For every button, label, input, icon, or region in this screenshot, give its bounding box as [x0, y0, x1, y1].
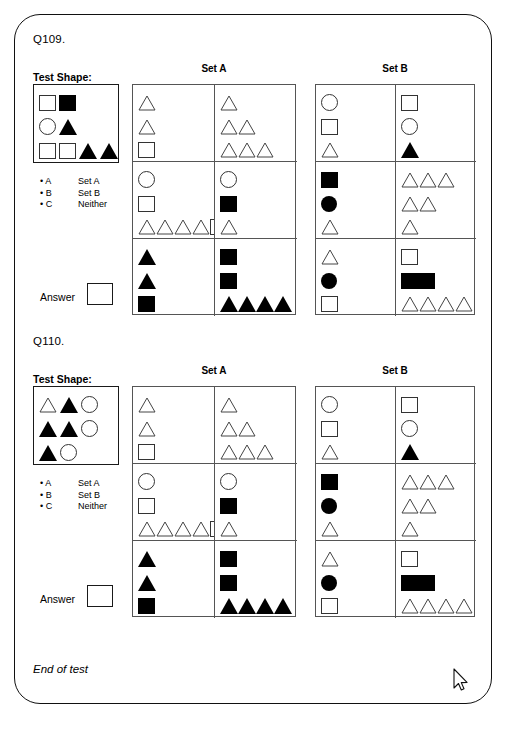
q109-set-a-label: Set A: [132, 63, 296, 74]
q109-answer-box[interactable]: [87, 283, 113, 305]
q109-option-b[interactable]: • BSet B: [40, 188, 107, 200]
triangle-outline: [455, 598, 473, 614]
triangle-outline: [437, 598, 455, 614]
q110-set-b-cell-b4[interactable]: [396, 464, 476, 541]
square-outline: [59, 143, 76, 159]
q109-set-a-cell-a3[interactable]: [133, 162, 215, 239]
q109-set-b-cell-b5[interactable]: [316, 239, 396, 316]
q109-set-b-cell-b6[interactable]: [396, 239, 476, 316]
shape-row: [321, 549, 339, 567]
triangle-outline: [401, 219, 419, 235]
shape-row: [401, 442, 419, 460]
q109-set-a-cell-a4[interactable]: [215, 162, 297, 239]
q110-option-c[interactable]: • CNeither: [40, 501, 107, 513]
triangle-filled: [238, 296, 256, 312]
triangle-filled: [274, 598, 292, 614]
q110-answer-box[interactable]: [87, 585, 113, 607]
shape-row: [321, 472, 338, 490]
q110-set-a-cell-a2[interactable]: [215, 387, 297, 464]
option-bullet: • A: [40, 478, 78, 490]
triangle-filled: [220, 598, 238, 614]
triangle-filled: [59, 119, 77, 135]
q109-set-b-cell-b4[interactable]: [396, 162, 476, 239]
shape-row: [401, 549, 418, 567]
shape-row: [138, 596, 155, 614]
shape-row: [321, 93, 338, 111]
shape-row: [321, 442, 339, 460]
shape-row: [321, 395, 338, 413]
shape-row: [138, 496, 155, 514]
q110-option-a[interactable]: • ASet A: [40, 478, 107, 490]
q109-answer-label: Answer: [40, 291, 75, 303]
triangle-outline: [321, 219, 339, 235]
shape-row: [321, 217, 339, 235]
shape-row: [401, 419, 418, 437]
q109-set-a-cell-a2[interactable]: [215, 85, 297, 162]
shape-row: [138, 170, 155, 188]
triangle-outline: [138, 397, 156, 413]
square-filled: [220, 551, 237, 567]
shape-row: [220, 573, 237, 591]
circle-outline: [401, 118, 418, 135]
square-outline: [138, 142, 155, 158]
q109-set-a-cell-a6[interactable]: [215, 239, 297, 316]
option-value: Neither: [78, 501, 107, 513]
q109-set-b-cell-b1[interactable]: [316, 85, 396, 162]
option-value: Set B: [78, 490, 100, 502]
triangle-outline: [455, 296, 473, 312]
q109-set-b-cell-b3[interactable]: [316, 162, 396, 239]
q110-set-b-cell-b5[interactable]: [316, 541, 396, 618]
q109-option-c[interactable]: • CNeither: [40, 199, 107, 211]
q109-set-b-cell-b2[interactable]: [396, 85, 476, 162]
q110-set-b-cell-b6[interactable]: [396, 541, 476, 618]
circle-outline: [39, 118, 56, 135]
q109-option-a[interactable]: • ASet A: [40, 176, 107, 188]
triangle-outline: [192, 521, 210, 537]
circle-outline: [401, 420, 418, 437]
q110-number: Q110.: [33, 335, 64, 347]
q110-test-shape-label: Test Shape:: [33, 373, 92, 385]
q110-option-b[interactable]: • BSet B: [40, 490, 107, 502]
shape-row: [138, 194, 155, 212]
q109-set-b-grid: [315, 84, 475, 315]
test-shape-row: [39, 417, 98, 437]
q110-set-b-cell-b3[interactable]: [316, 464, 396, 541]
triangle-outline: [156, 219, 174, 235]
q110-set-b-cell-b1[interactable]: [316, 387, 396, 464]
triangle-outline: [321, 521, 339, 537]
shape-row: [220, 549, 237, 567]
q109-set-a-cell-a5[interactable]: [133, 239, 215, 316]
q110-set-a-cell-a6[interactable]: [215, 541, 297, 618]
q110-set-a-cell-a4[interactable]: [215, 464, 297, 541]
square-outline: [401, 551, 418, 567]
triangle-outline: [238, 142, 256, 158]
square-outline: [321, 119, 338, 135]
square-filled: [220, 273, 237, 289]
triangle-filled: [138, 575, 156, 591]
shape-row: [401, 271, 435, 289]
square-filled: [418, 575, 435, 591]
end-of-test-label: End of test: [33, 663, 88, 675]
q110-set-a-cell-a3[interactable]: [133, 464, 215, 541]
q110-set-a-cell-a5[interactable]: [133, 541, 215, 618]
shape-row: [401, 93, 418, 111]
triangle-filled: [256, 598, 274, 614]
q110-set-a-grid: [132, 386, 296, 617]
square-outline: [138, 498, 155, 514]
option-bullet: • B: [40, 490, 78, 502]
q110-set-b-cell-b2[interactable]: [396, 387, 476, 464]
triangle-outline: [419, 296, 437, 312]
q109-set-a-cell-a1[interactable]: [133, 85, 215, 162]
shape-row: [401, 117, 418, 135]
square-filled: [220, 575, 237, 591]
q110-set-a-cell-a1[interactable]: [133, 387, 215, 464]
triangle-outline: [174, 521, 192, 537]
shape-row: [401, 194, 437, 212]
square-outline: [401, 249, 418, 265]
shape-row: [138, 217, 215, 235]
shape-row: [220, 442, 274, 460]
shape-row: [321, 247, 339, 265]
shape-row: [138, 472, 155, 490]
q109-set-b-label: Set B: [315, 63, 475, 74]
option-bullet: • C: [40, 501, 78, 513]
